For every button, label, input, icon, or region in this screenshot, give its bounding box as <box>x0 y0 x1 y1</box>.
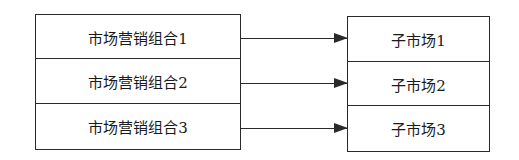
marketing-mix-1-label: 市场营销组合1 <box>88 27 188 48</box>
submarket-1-box: 子市场1 <box>348 17 489 62</box>
marketing-mix-1-box: 市场营销组合1 <box>36 15 240 59</box>
submarket-2-label: 子市场2 <box>391 74 446 95</box>
arrowhead-icon <box>334 123 348 133</box>
arrow-3 <box>241 128 347 129</box>
marketing-mix-3-label: 市场营销组合3 <box>88 116 188 137</box>
submarket-stack: 子市场1 子市场2 子市场3 <box>347 16 490 152</box>
submarket-3-box: 子市场3 <box>348 105 489 151</box>
submarket-2-box: 子市场2 <box>348 61 489 106</box>
arrow-2 <box>241 83 347 84</box>
arrow-1 <box>241 38 347 39</box>
submarket-3-label: 子市场3 <box>391 118 446 139</box>
marketing-mix-2-label: 市场营销组合2 <box>88 71 188 92</box>
submarket-1-label: 子市场1 <box>391 29 446 50</box>
marketing-mix-stack: 市场营销组合1 市场营销组合2 市场营销组合3 <box>35 14 241 150</box>
marketing-mix-2-box: 市场营销组合2 <box>36 58 240 104</box>
arrowhead-icon <box>334 78 348 88</box>
arrowhead-icon <box>334 33 348 43</box>
marketing-mix-3-box: 市场营销组合3 <box>36 103 240 149</box>
